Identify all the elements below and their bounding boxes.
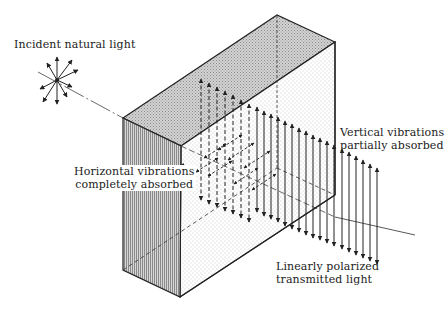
polarizer-slab — [123, 15, 335, 297]
vertical-label-line1: Vertical vibrations — [340, 126, 444, 139]
horizontal-label-line1: Horizontal vibrations — [74, 165, 194, 178]
incident-light-label: Incident natural light — [14, 38, 135, 51]
transmitted-label-line2: transmitted light — [276, 273, 379, 286]
natural-light-starburst-icon — [40, 57, 78, 104]
beam-axis — [38, 72, 123, 118]
transmitted-label-line1: Linearly polarized — [276, 260, 379, 273]
vertical-vibrations-label: Vertical vibrations partially absorbed — [340, 126, 444, 152]
vertical-label-line2: partially absorbed — [340, 139, 444, 152]
incident-light-text: Incident natural light — [14, 38, 135, 51]
slab-front-face — [123, 118, 181, 297]
transmitted-light-label: Linearly polarized transmitted light — [276, 260, 379, 286]
polarizer-diagram: Incident natural light Horizontal vibrat… — [0, 0, 446, 313]
horizontal-label-line2: completely absorbed — [74, 178, 194, 191]
horizontal-vibrations-label: Horizontal vibrations completely absorbe… — [72, 165, 196, 191]
